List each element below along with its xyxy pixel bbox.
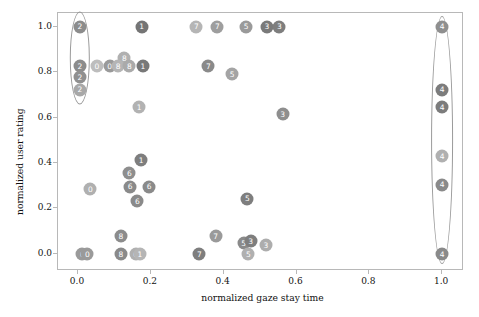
data-point-marker: 7 [202,60,215,73]
x-tick-mark [368,270,369,274]
data-point-marker: 1 [135,20,148,33]
x-tick-mark [296,270,297,274]
y-tick-label: 1.0 [38,21,52,31]
data-point-marker: 1 [135,154,148,167]
data-point-marker: 5 [226,68,239,81]
data-point-marker: 3 [244,235,257,248]
plot-area: 2177533482008817252414341646606587533008… [57,12,463,270]
data-point-marker: 4 [436,101,449,114]
data-point-marker: 5 [240,20,253,33]
data-point-marker: 6 [143,180,156,193]
data-point-marker: 2 [73,20,86,33]
data-point-marker: 1 [136,60,149,73]
data-point-marker: 8 [114,229,127,242]
x-tick-mark [150,270,151,274]
y-tick-label: 0.8 [38,66,52,76]
x-tick-label: 0.4 [216,276,230,286]
x-tick-label: 0.8 [361,276,375,286]
scatter-plot-figure: normalized user rating normalized gaze s… [0,0,479,317]
y-tick-label: 0.4 [38,157,52,167]
x-axis-label: normalized gaze stay time [0,292,479,303]
data-point-marker: 7 [209,229,222,242]
data-point-marker: 3 [259,238,272,251]
data-point-marker: 0 [90,60,103,73]
y-tick-label: 0.2 [38,202,52,212]
data-point-marker: 5 [242,247,255,260]
x-tick-mark [77,270,78,274]
x-tick-label: 0.2 [143,276,157,286]
data-point-marker: 4 [436,178,449,191]
data-point-marker: 5 [241,192,254,205]
data-point-marker: 3 [261,20,274,33]
x-tick-label: 0.6 [288,276,302,286]
y-tick-label: 0.0 [38,248,52,258]
right-cluster-ellipse [431,16,453,264]
data-point-marker: 7 [190,20,203,33]
data-point-marker: 7 [193,247,206,260]
x-tick-mark [441,270,442,274]
data-point-marker: 3 [276,108,289,121]
data-point-marker: 6 [131,194,144,207]
data-point-marker: 4 [436,83,449,96]
data-point-marker: 2 [73,83,86,96]
x-tick-mark [223,270,224,274]
x-tick-label: 1.0 [434,276,448,286]
data-point-marker: 3 [273,20,286,33]
data-point-marker: 6 [124,180,137,193]
data-point-marker: 8 [123,60,136,73]
data-point-marker: 4 [436,149,449,162]
x-tick-label: 0.0 [70,276,84,286]
data-point-marker: 8 [114,247,127,260]
data-point-marker: 4 [436,247,449,260]
data-point-marker: 0 [84,183,97,196]
y-axis-label: normalized user rating [14,0,25,215]
data-point-marker: 2 [73,71,86,84]
data-point-marker: 1 [133,101,146,114]
data-point-marker: 1 [133,247,146,260]
data-point-marker: 4 [436,20,449,33]
data-point-marker: 7 [211,20,224,33]
y-tick-label: 0.6 [38,112,52,122]
data-point-marker: 0 [81,247,94,260]
data-point-marker: 6 [123,167,136,180]
